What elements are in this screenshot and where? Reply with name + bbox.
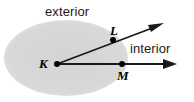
angle-diagram-figure: exterior interior K L M — [0, 0, 194, 102]
ray-kl-arrowhead-icon — [148, 23, 164, 32]
point-label-k: K — [39, 56, 48, 72]
ray-km-arrowhead-icon — [163, 59, 177, 69]
point-m-dot — [119, 61, 125, 67]
point-label-l: L — [110, 23, 118, 39]
point-label-m: M — [117, 68, 129, 84]
exterior-region-label: exterior — [45, 4, 89, 19]
vertex-point-k-dot — [54, 61, 60, 67]
interior-region-label: interior — [130, 41, 171, 56]
